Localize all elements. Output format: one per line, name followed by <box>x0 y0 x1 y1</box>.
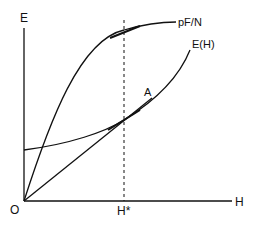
x-axis-label: H <box>235 195 244 209</box>
pf-n-tangent <box>110 26 140 38</box>
steep-line <box>24 112 60 201</box>
origin-label: O <box>10 203 19 217</box>
pf-n-label: pF/N <box>178 16 202 28</box>
h-star-label: H* <box>117 204 131 218</box>
diagram-canvas: E H O H* pF/N E(H) A <box>0 0 255 225</box>
y-axis-label: E <box>20 11 28 25</box>
point-a-label: A <box>144 86 152 98</box>
pf-n-curve <box>24 22 176 201</box>
ray-o-a <box>24 98 152 201</box>
e-h-label: E(H) <box>192 38 215 50</box>
